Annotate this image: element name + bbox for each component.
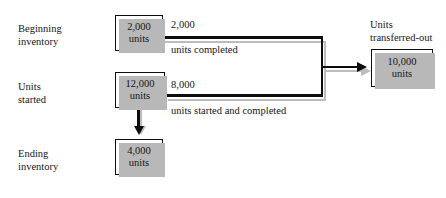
units-completed-line-shadow [163, 41, 326, 43]
transferred-out-arrow-head [357, 62, 367, 72]
units-transferred-out-node[interactable]: 10,000 units [371, 49, 433, 87]
row-label-line2: started [18, 94, 46, 105]
beginning-inventory-node[interactable]: 2,000 units [115, 15, 163, 51]
units-started-completed-amount: 8,000 [171, 79, 195, 92]
units-started-completed-line-shadow [168, 99, 326, 101]
units-started-completed-vertical [321, 66, 324, 97]
node-value: 12,000 [126, 78, 155, 91]
row-label-line1: Beginning [18, 23, 62, 34]
ending-inventory-arrow-shaft [137, 107, 140, 128]
units-started-completed-description: units started and completed [171, 105, 286, 118]
units-completed-description: units completed [171, 44, 238, 57]
row-label-line2: inventory [18, 161, 58, 172]
units-completed-line [160, 36, 323, 39]
node-unit: units [392, 68, 412, 81]
row-label-line1: Units [18, 81, 41, 92]
ending-inventory-arrow-head [134, 126, 144, 135]
node-value: 10,000 [388, 56, 417, 69]
row-label-line2: inventory [18, 36, 58, 47]
row-label-units-started: Units started [18, 81, 46, 106]
units-completed-vertical [321, 36, 324, 68]
row-label-line1: Ending [18, 148, 48, 159]
units-started-node[interactable]: 12,000 units [115, 72, 165, 108]
transferred-out-arrow-shaft [321, 66, 361, 69]
diagram-canvas: Beginning inventory Units started Ending… [0, 0, 446, 198]
clipped-top-text [40, 0, 190, 4]
units-started-completed-vertical-shadow [324, 71, 326, 101]
node-value: 2,000 [127, 21, 151, 34]
units-started-completed-line [165, 94, 323, 97]
row-label-beginning-inventory: Beginning inventory [18, 23, 62, 48]
units-transferred-out-caption: Units transferred-out [370, 19, 432, 44]
node-unit: units [130, 90, 150, 103]
ending-inventory-node[interactable]: 4,000 units [115, 139, 163, 175]
node-value: 4,000 [127, 145, 151, 158]
node-unit: units [129, 33, 149, 46]
node-unit: units [129, 157, 149, 170]
caption-line2: transferred-out [370, 32, 432, 43]
caption-line1: Units [370, 19, 393, 30]
units-completed-amount: 2,000 [171, 19, 195, 32]
row-label-ending-inventory: Ending inventory [18, 148, 58, 173]
